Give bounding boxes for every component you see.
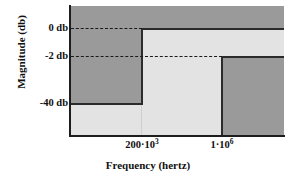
spec-line-minus40db	[71, 103, 143, 105]
spec-line-minus2db	[221, 56, 284, 58]
guide-line-0db	[71, 28, 142, 29]
spec-line-vertical-200k	[141, 28, 143, 104]
y-axis-line	[69, 5, 71, 137]
x-axis-line	[69, 135, 285, 137]
region-above-passband-forbidden	[142, 6, 284, 29]
guide-line-minus2db	[71, 56, 222, 57]
region-stopband-low-forbidden	[71, 6, 142, 104]
x-tick-200k-mantissa: 200·10	[125, 139, 155, 150]
x-tick-1m-exponent: 6	[230, 137, 234, 146]
plot-area	[71, 6, 284, 135]
y-tick-label-minus40db: -40 db	[20, 97, 68, 108]
y-tick-label-0db: 0 db	[20, 22, 68, 33]
x-tick-label-1m: 1·106	[210, 139, 233, 150]
region-stopband-high-forbidden	[222, 57, 284, 135]
filter-specification-chart: Magnitude (db) 0 db -2 db -40 db 200·103…	[0, 0, 296, 180]
x-axis-title: Frequency (hertz)	[0, 159, 296, 171]
x-tick-1m-mantissa: 1·10	[210, 139, 229, 150]
spec-line-vertical-1m	[221, 56, 223, 135]
y-tick-label-group: 0 db -2 db -40 db	[18, 0, 68, 180]
y-tick-label-minus2db: -2 db	[20, 50, 68, 61]
x-tick-label-200k: 200·103	[125, 139, 159, 150]
tick-continuation-200k	[141, 104, 142, 135]
spec-line-0db	[141, 28, 284, 30]
x-tick-200k-exponent: 3	[155, 137, 159, 146]
